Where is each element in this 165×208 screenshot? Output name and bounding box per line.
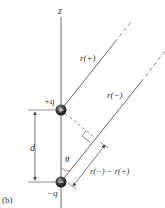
difference-tick-top — [100, 142, 108, 148]
r-minus-line-dashed — [141, 51, 165, 82]
negative-charge-label: −q — [47, 188, 58, 198]
r-minus-label: r(−) — [107, 90, 123, 100]
dipole-diagram: z r(+) r(−) d θ r(−) − r(+) +q −q (b) — [0, 0, 165, 208]
negative-charge — [56, 177, 67, 188]
panel-label: (b) — [2, 195, 13, 205]
z-axis-label: z — [57, 5, 62, 16]
projection-dashed-line — [61, 110, 95, 138]
r-plus-line-dashed — [115, 22, 131, 42]
difference-label: r(−) − r(+) — [90, 166, 130, 176]
positive-charge-label: +q — [44, 96, 55, 106]
r-plus-label: r(+) — [80, 53, 96, 63]
angle-arc — [61, 168, 70, 171]
angle-label: θ — [65, 154, 70, 164]
positive-charge — [56, 105, 67, 116]
